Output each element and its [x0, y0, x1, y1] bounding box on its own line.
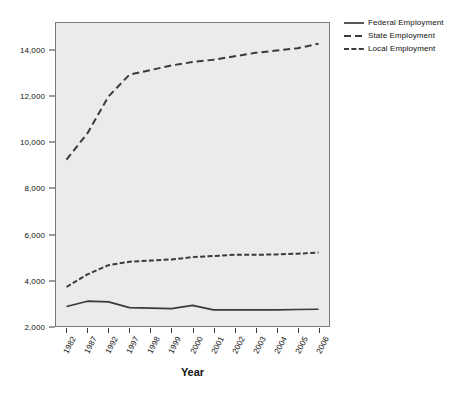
x-tick-label: 2001: [209, 335, 225, 355]
x-tick-mark: [214, 328, 215, 333]
x-tick-mark: [108, 328, 109, 333]
legend-line-sample: [344, 18, 364, 28]
x-tick-label: 2006: [315, 335, 331, 355]
x-tick-mark: [298, 328, 299, 333]
y-tick-label: 8,000: [24, 184, 45, 193]
legend-label: Federal Employment: [368, 18, 444, 27]
legend-item: Local Employment: [344, 43, 460, 54]
chart-legend: Federal EmploymentState EmploymentLocal …: [344, 17, 460, 56]
legend-line-sample: [344, 31, 364, 41]
legend-label: State Employment: [368, 31, 435, 40]
y-tick-label: 10,000: [20, 138, 45, 147]
x-tick-label: 1997: [124, 335, 140, 355]
plot-series-svg: [56, 23, 329, 326]
y-tick-label: 14,000: [20, 45, 45, 54]
x-tick-label: 2002: [230, 335, 246, 355]
x-tick-mark: [319, 328, 320, 333]
x-tick-mark: [66, 328, 67, 333]
x-tick-label: 1999: [167, 335, 183, 355]
x-tick-mark: [193, 328, 194, 333]
y-tick-label: 6,000: [24, 230, 45, 239]
x-tick-mark: [150, 328, 151, 333]
series-line: [67, 301, 319, 310]
y-tick-label: 4,000: [24, 276, 45, 285]
employment-line-chart: 2,0004,0006,0008,00010,00012,00014,000 1…: [0, 0, 462, 394]
legend-item: Federal Employment: [344, 17, 460, 28]
y-tick-label: 2,000: [24, 323, 45, 332]
x-tick-label: 1998: [146, 335, 162, 355]
x-tick-mark: [277, 328, 278, 333]
legend-item: State Employment: [344, 30, 460, 41]
x-tick-mark: [171, 328, 172, 333]
legend-line-sample: [344, 44, 364, 54]
x-tick-mark: [87, 328, 88, 333]
x-tick-mark: [129, 328, 130, 333]
plot-area: [55, 22, 330, 327]
series-line: [67, 253, 319, 287]
x-tick-label: 2005: [294, 335, 310, 355]
y-tick-label: 12,000: [20, 91, 45, 100]
series-line: [67, 44, 319, 160]
x-tick-label: 2003: [251, 335, 267, 355]
x-axis-title: Year: [55, 366, 330, 378]
y-axis: 2,0004,0006,0008,00010,00012,00014,000: [0, 22, 55, 328]
x-tick-label: 1982: [61, 335, 77, 355]
x-tick-mark: [235, 328, 236, 333]
x-tick-label: 2000: [188, 335, 204, 355]
x-tick-label: 1992: [103, 335, 119, 355]
x-tick-label: 2004: [273, 335, 289, 355]
x-tick-mark: [256, 328, 257, 333]
x-axis: 1982198719921997199819992000200120022003…: [55, 328, 330, 368]
legend-label: Local Employment: [368, 44, 435, 53]
x-tick-label: 1987: [82, 335, 98, 355]
